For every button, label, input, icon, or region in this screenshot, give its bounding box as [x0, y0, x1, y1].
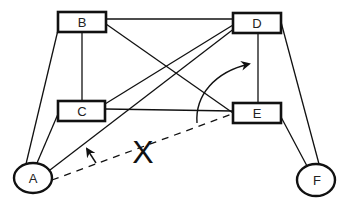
graph-diagram: B C D E A F X — [0, 0, 346, 207]
edge-d-f — [281, 22, 319, 164]
node-c-label: C — [77, 104, 86, 119]
node-f-label: F — [313, 173, 321, 188]
annotation-x-label: X — [132, 134, 153, 170]
node-a-label: A — [29, 171, 38, 186]
edges — [26, 19, 319, 180]
node-b[interactable]: B — [58, 12, 106, 32]
node-d-label: D — [252, 16, 261, 31]
node-e[interactable]: E — [233, 103, 281, 123]
node-d[interactable]: D — [233, 13, 281, 33]
node-a[interactable]: A — [14, 163, 52, 193]
node-b-label: B — [78, 15, 87, 30]
nodes: B C D E A F — [14, 12, 335, 196]
edge-e-f — [281, 117, 307, 166]
edge-c-e — [105, 109, 233, 111]
rotation-arrow-small — [87, 149, 96, 163]
node-c[interactable]: C — [58, 101, 105, 121]
edge-c-a — [37, 114, 58, 163]
node-e-label: E — [253, 106, 262, 121]
edge-b-a — [26, 30, 58, 164]
node-f[interactable]: F — [297, 164, 335, 196]
